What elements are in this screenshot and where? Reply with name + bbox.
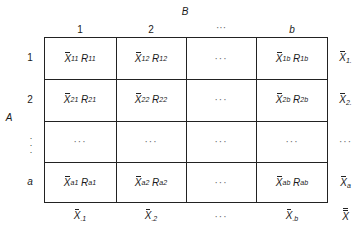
row-mean-value: X1. [339, 52, 352, 64]
cell-mean: X [276, 94, 283, 105]
cell-range-subscript: 11 [88, 55, 95, 62]
cell-mean: X [135, 53, 142, 64]
table-cell: ··· [186, 120, 256, 162]
ellipsis: ··· [74, 136, 87, 147]
col-header-b: b [256, 24, 328, 35]
cell-mean-subscript: 22 [142, 96, 150, 103]
column-mean-value: X.b [286, 210, 299, 222]
col-header-ellipsis: ··· [186, 22, 256, 33]
cell-mean: X [135, 177, 142, 188]
cell-range: R [293, 53, 300, 64]
table-cell: X2b R2b [256, 79, 328, 120]
subscript: .b [292, 215, 298, 222]
grand-mean-symbol: X [342, 211, 349, 222]
column-mean-value: X.2 [145, 210, 158, 222]
x-bar-symbol: X [339, 94, 346, 105]
row-mean: ··· [330, 120, 361, 162]
table-cell: ··· [44, 120, 116, 162]
table-cell: X11 R11 [44, 37, 116, 79]
row-mean: X2. [330, 79, 361, 120]
x-bar-symbol: X [74, 210, 81, 221]
table-cell: ··· [186, 79, 256, 120]
row-mean: Xa [330, 162, 361, 203]
cell-range-subscript: 12 [159, 55, 167, 62]
factor-b-label: B [178, 6, 192, 17]
cell-range-subscript: a1 [88, 179, 96, 186]
ellipsis: ··· [215, 177, 228, 188]
cell-range: R [152, 177, 159, 188]
cell-mean: X [276, 177, 283, 188]
ellipsis: ··· [286, 136, 299, 147]
ellipsis: ··· [215, 94, 228, 105]
cell-mean-subscript: 21 [71, 96, 79, 103]
subscript: a [347, 182, 351, 189]
cell-mean: X [276, 53, 283, 64]
table-cell: X22 R22 [116, 79, 186, 120]
cell-mean: X [64, 177, 71, 188]
table-cell: ··· [186, 37, 256, 79]
cell-range-subscript: 2b [300, 96, 308, 103]
grand-mean: X [330, 206, 361, 226]
cell-mean-subscript: a2 [142, 179, 150, 186]
column-mean: X.2 [116, 206, 186, 226]
x-bar-symbol: X [145, 210, 152, 221]
subscript: 2. [346, 99, 352, 106]
table-cell: X12 R12 [116, 37, 186, 79]
ellipsis: ··· [339, 136, 352, 147]
row-header-dots: ··· [29, 135, 33, 156]
cell-range: R [81, 177, 88, 188]
subscript: .2 [151, 215, 157, 222]
cell-mean-subscript: 12 [142, 55, 150, 62]
factor-a-label: A [4, 112, 14, 123]
cell-range-subscript: 22 [159, 96, 167, 103]
cell-range-subscript: 1b [300, 55, 308, 62]
table-cell: ··· [186, 162, 256, 203]
cell-mean: X [64, 94, 71, 105]
table-cell: Xa1 Ra1 [44, 162, 116, 203]
subscript: 1. [346, 57, 352, 64]
subscript: .1 [80, 215, 86, 222]
column-mean-value: X.1 [74, 210, 87, 222]
table-cell: ··· [116, 120, 186, 162]
ellipsis: ··· [145, 136, 158, 147]
cell-range-subscript: 21 [88, 96, 96, 103]
table-cell: Xab Rab [256, 162, 328, 203]
table-cell: X21 R21 [44, 79, 116, 120]
cell-range-subscript: ab [300, 179, 308, 186]
col-header-1: 1 [44, 24, 116, 35]
cell-mean: X [64, 53, 71, 64]
ellipsis: ··· [215, 136, 228, 147]
column-mean-value: ··· [215, 211, 228, 222]
row-header-1: 1 [24, 52, 36, 63]
x-bar-symbol: X [340, 177, 347, 188]
row-header-2: 2 [24, 94, 36, 105]
row-mean-value: ··· [339, 136, 352, 147]
row-mean-value: X2. [339, 94, 352, 106]
ellipsis: ··· [215, 53, 228, 64]
x-bar-symbol: X [339, 52, 346, 63]
cell-range: R [293, 177, 300, 188]
cell-range-subscript: a2 [159, 179, 167, 186]
column-mean: X.b [256, 206, 328, 226]
cell-range: R [152, 53, 159, 64]
column-mean: ··· [186, 206, 256, 226]
table-cell: ··· [256, 120, 328, 162]
table-cell: Xa2 Ra2 [116, 162, 186, 203]
cell-range: R [81, 53, 88, 64]
ellipsis: ··· [215, 211, 228, 222]
row-mean-value: Xa [340, 177, 351, 189]
cell-mean-subscript: ab [283, 179, 291, 186]
table-cell: X1b R1b [256, 37, 328, 79]
cell-mean-subscript: 2b [283, 96, 291, 103]
cell-mean: X [135, 94, 142, 105]
row-header-a: a [24, 176, 36, 187]
cell-mean-subscript: a1 [71, 179, 79, 186]
x-bar-symbol: X [286, 210, 293, 221]
row-mean: X1. [330, 37, 361, 79]
cell-mean-subscript: 11 [71, 55, 78, 62]
cell-mean-subscript: 1b [283, 55, 291, 62]
col-header-2: 2 [116, 24, 186, 35]
column-mean: X.1 [44, 206, 116, 226]
